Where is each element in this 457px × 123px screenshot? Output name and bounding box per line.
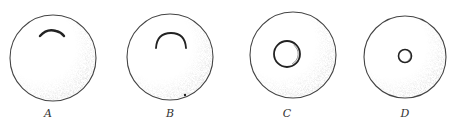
dot-mark xyxy=(184,94,186,96)
panel-label: D xyxy=(400,107,410,120)
panel-label: A xyxy=(43,107,52,120)
panel-d: D xyxy=(364,16,446,120)
panel-label: B xyxy=(165,107,174,120)
panel-a: A xyxy=(10,15,96,120)
panel-label: C xyxy=(283,107,292,120)
panel-c: C xyxy=(250,12,336,120)
stipple-shading xyxy=(365,17,445,97)
stipple-shading xyxy=(128,15,212,99)
figure-canvas: ABCD xyxy=(0,0,457,123)
stipple-shading xyxy=(11,16,95,100)
panel-b: B xyxy=(127,14,213,120)
stipple-shading xyxy=(251,13,335,97)
